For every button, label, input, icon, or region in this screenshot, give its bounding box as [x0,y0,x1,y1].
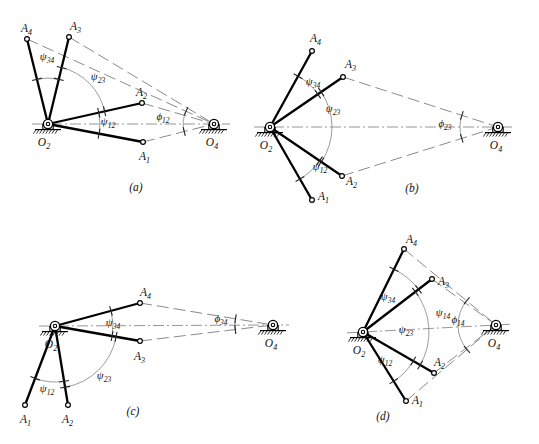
ground-pivot-o4 [258,320,286,334]
angle-tick [235,314,236,323]
joint-a1 [141,140,146,145]
label-o2-b: O2 [260,139,272,154]
label-psi-23-d: ψ23 [399,323,414,338]
crank-link-o2-a4[interactable] [55,303,140,326]
joint-a3 [67,35,72,40]
psi-arc-A3A4 [394,269,419,289]
ground-pivot-o4 [483,122,511,136]
figure-container: O2O4A1A2A3A4ψ12ψ23ψ34ϕ12(a)O2O4A1A2A3A4ψ… [0,0,539,444]
center-line [39,325,289,326]
four-bar-linkage-figure: O2O4A1A2A3A4ψ12ψ23ψ34ϕ12(a)O2O4A1A2A3A4ψ… [0,0,539,444]
label-a2-c: A2 [61,413,73,428]
label-phi-14-d: ϕ14 [451,313,464,328]
coupler-link-a2-o4 [342,127,498,176]
panel-c [23,301,289,408]
label-a1-c: A1 [19,413,31,428]
label-a2-b: A2 [345,175,357,190]
label-a2-a: A2 [135,86,147,101]
label-psi-34-c: ψ34 [106,316,121,331]
label-a3-c: A3 [133,350,145,365]
panel-b [254,49,514,203]
label-a3-b: A3 [344,58,356,73]
label-a1-d: A1 [411,394,423,409]
crank-link-o2-a2[interactable] [55,326,68,405]
panel-caption-c: (c) [127,405,140,418]
crank-link-o2-a2[interactable] [48,103,142,124]
label-phi-23-b: ϕ23 [438,117,451,132]
psi-arc-A1A2 [394,361,414,381]
joint-a3 [430,277,435,282]
psi-arc-A2A3 [62,68,105,112]
joint-a1 [404,399,409,404]
angle-tick [184,107,188,115]
joint-a4 [310,49,315,54]
angle-tick [464,297,470,304]
label-a4-b: A4 [309,32,321,47]
label-a1-b: A1 [317,190,329,205]
coupler-link-a2-o4 [142,103,214,124]
ground-pivot-o2 [348,327,376,341]
joint-a3 [341,75,346,80]
label-a3-d: A3 [437,275,449,290]
panel-a [25,35,230,145]
crank-link-o2-a3[interactable] [363,279,432,332]
ground-pivot-o4 [481,320,509,334]
joint-a4 [138,301,143,306]
joint-a2 [66,403,71,408]
coupler-link-a3-o4 [343,77,498,127]
label-psi-34-a: ψ34 [40,50,55,65]
label-psi-12-a: ψ12 [101,115,116,130]
label-o2-d: O2 [353,344,365,359]
joint-a1 [23,403,28,408]
label-psi-23-a: ψ23 [91,70,106,85]
coupler-link-a3-o4 [140,325,273,341]
crank-link-o2-a4[interactable] [270,51,312,127]
joint-a3 [138,339,143,344]
label-psi-12-c: ψ12 [40,382,55,397]
panel-caption-a: (a) [129,181,143,194]
joint-a1 [310,198,315,203]
ground-pivot-o2 [255,122,283,136]
label-a1-a: A1 [138,150,150,165]
label-psi-14-d: ψ14 [436,306,451,321]
label-psi-34-b: ψ34 [306,75,321,90]
label-o4-d: O4 [488,337,500,352]
panel-caption-d: (d) [376,410,390,423]
angle-tick [235,325,236,334]
label-psi-23-c: ψ23 [97,369,112,384]
label-o2-a: O2 [38,136,50,151]
label-a3-a: A3 [69,20,81,35]
panel-d [347,247,512,404]
crank-link-o2-a3[interactable] [55,326,140,341]
crank-link-o2-a1[interactable] [270,127,312,200]
coupler-link-a4-o4 [140,303,273,325]
label-o4-c: O4 [265,337,277,352]
label-phi-12-a: ϕ12 [156,110,169,125]
label-psi-34-d: ψ34 [381,290,396,305]
label-a4-d: A4 [405,233,417,248]
label-o4-b: O4 [490,139,502,154]
label-o4-a: O4 [206,136,218,151]
label-psi-12-d: ψ12 [378,353,393,368]
joint-a4 [402,247,407,252]
joint-a2 [140,101,145,106]
label-a4-c: A4 [139,286,151,301]
coupler-link-a1-o4 [406,325,496,401]
joint-a2 [432,371,437,376]
label-psi-23-b: ψ23 [326,102,341,117]
joint-a4 [25,37,30,42]
label-a4-a: A4 [20,22,32,37]
panel-caption-b: (b) [405,182,419,195]
joint-a2 [340,174,345,179]
crank-link-o2-a1[interactable] [48,124,143,142]
